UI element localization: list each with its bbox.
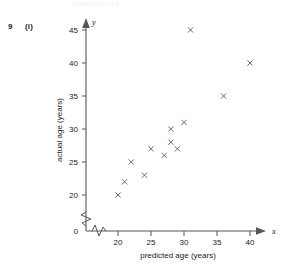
data-point-marker (129, 159, 134, 164)
y-axis-variable-label: y (91, 17, 96, 27)
y-tick-label-25: 25 (69, 158, 78, 167)
y-tick-label-40: 40 (69, 59, 78, 68)
data-point-marker (142, 173, 147, 178)
y-tick-marks (82, 30, 86, 195)
data-point-marker (168, 140, 173, 145)
data-point-marker (148, 146, 153, 151)
x-tick-label-35: 35 (213, 238, 222, 247)
page-root: 9709/12/M/J/20 9 (i) y x 0 (0, 0, 285, 265)
x-axis-variable-label: x (271, 226, 276, 236)
data-point-marker (168, 126, 173, 131)
data-point-marker (188, 27, 193, 32)
x-tick-label-25: 25 (147, 238, 156, 247)
data-point-marker (162, 153, 167, 158)
y-tick-label-30: 30 (69, 125, 78, 134)
data-point-marker (221, 93, 226, 98)
data-point-marker (175, 146, 180, 151)
x-tick-marks (118, 231, 250, 236)
y-axis (82, 18, 90, 231)
y-axis-title: actual age (years) (55, 98, 64, 162)
x-axis-title: predicted age (years) (140, 251, 216, 260)
data-point-marker (115, 192, 120, 197)
x-tick-label-30: 30 (180, 238, 189, 247)
data-point-marker (181, 120, 186, 125)
data-point-group (115, 27, 252, 197)
scatter-plot: y x 0 45 40 35 30 (0, 0, 285, 265)
data-point-marker (247, 60, 252, 65)
x-tick-label-20: 20 (114, 238, 123, 247)
x-tick-label-40: 40 (246, 238, 255, 247)
y-tick-label-45: 45 (69, 26, 78, 35)
data-point-marker (122, 179, 127, 184)
scatter-plot-svg: y x 0 45 40 35 30 (0, 0, 285, 265)
x-axis (86, 227, 266, 235)
y-tick-label-20: 20 (69, 191, 78, 200)
origin-label: 0 (74, 227, 79, 236)
y-tick-label-35: 35 (69, 92, 78, 101)
